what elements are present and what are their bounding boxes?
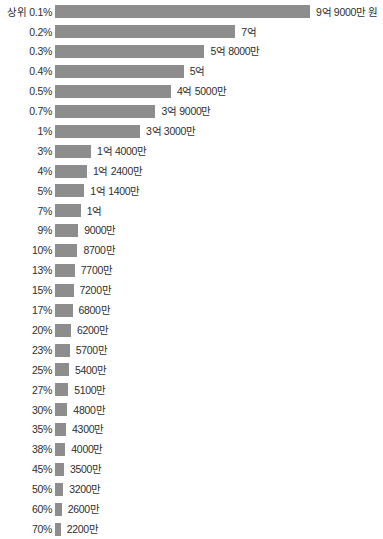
chart-row: 25%5400만 [0, 360, 383, 380]
bar [55, 463, 64, 476]
bar-area: 9000만 [52, 221, 383, 241]
category-label: 45% [0, 464, 52, 475]
bar-area: 4억 5000만 [52, 82, 383, 102]
category-label: 0.7% [0, 106, 52, 117]
bar-area: 9억 9000만 원 [52, 2, 383, 22]
category-label: 27% [0, 385, 52, 396]
bar-area: 5억 [52, 62, 383, 82]
bar-area: 5400만 [52, 360, 383, 380]
category-label: 상위 0.1% [0, 7, 52, 18]
bar [55, 264, 75, 277]
chart-row: 30%4800만 [0, 400, 383, 420]
value-label: 5100만 [74, 385, 106, 396]
bar [55, 363, 69, 376]
category-label: 7% [0, 206, 52, 217]
bar-area: 5억 8000만 [52, 42, 383, 62]
category-label: 35% [0, 424, 52, 435]
bar [55, 244, 77, 257]
bar [55, 204, 81, 217]
bar [55, 324, 71, 337]
chart-row: 38%4000만 [0, 440, 383, 460]
chart-row: 4%1억 2400만 [0, 161, 383, 181]
bar-area: 1억 2400만 [52, 161, 383, 181]
value-label: 8700만 [83, 245, 115, 256]
bar [55, 304, 73, 317]
bar-area: 2200만 [52, 519, 383, 539]
value-label: 4300만 [72, 424, 104, 435]
bar [55, 284, 74, 297]
bar [55, 383, 68, 396]
chart-row: 70%2200만 [0, 519, 383, 539]
value-label: 5700만 [76, 345, 108, 356]
value-label: 3200만 [69, 484, 101, 495]
chart-row: 1%3억 3000만 [0, 121, 383, 141]
bar-area: 4300만 [52, 420, 383, 440]
chart-row: 7%1억 [0, 201, 383, 221]
category-label: 20% [0, 325, 52, 336]
category-label: 9% [0, 225, 52, 236]
value-label: 2600만 [68, 504, 100, 515]
bar-area: 3200만 [52, 479, 383, 499]
value-label: 6200만 [77, 325, 109, 336]
category-label: 30% [0, 405, 52, 416]
bar [55, 25, 235, 38]
category-label: 25% [0, 365, 52, 376]
bar [55, 85, 171, 98]
bar-area: 3억 9000만 [52, 101, 383, 121]
value-label: 1억 [87, 206, 102, 217]
chart-row: 0.4%5억 [0, 62, 383, 82]
category-label: 1% [0, 126, 52, 137]
category-label: 10% [0, 245, 52, 256]
bar [55, 165, 87, 178]
chart-row: 17%6800만 [0, 300, 383, 320]
category-label: 0.2% [0, 27, 52, 38]
bar [55, 125, 140, 138]
value-label: 3억 3000만 [146, 126, 196, 137]
bar-area: 1억 1400만 [52, 181, 383, 201]
bar [55, 483, 63, 496]
chart-row: 0.3%5억 8000만 [0, 42, 383, 62]
bar-area: 5700만 [52, 340, 383, 360]
category-label: 0.3% [0, 46, 52, 57]
category-label: 38% [0, 444, 52, 455]
value-label: 1억 4000만 [97, 146, 147, 157]
bar [55, 5, 310, 18]
value-label: 7억 [241, 27, 256, 38]
category-label: 3% [0, 146, 52, 157]
chart-row: 10%8700만 [0, 241, 383, 261]
bar-area: 3500만 [52, 459, 383, 479]
bar [55, 443, 65, 456]
bar [55, 45, 204, 58]
chart-row: 5%1억 1400만 [0, 181, 383, 201]
category-label: 50% [0, 484, 52, 495]
value-label: 4억 5000만 [177, 86, 227, 97]
bar-area: 8700만 [52, 241, 383, 261]
chart-row: 23%5700만 [0, 340, 383, 360]
chart-row: 27%5100만 [0, 380, 383, 400]
bar-area: 5100만 [52, 380, 383, 400]
bar-area: 6800만 [52, 300, 383, 320]
bar [55, 145, 91, 158]
category-label: 4% [0, 166, 52, 177]
category-label: 23% [0, 345, 52, 356]
value-label: 1억 2400만 [93, 166, 143, 177]
bar-area: 6200만 [52, 320, 383, 340]
bar [55, 403, 67, 416]
bar [55, 523, 61, 536]
category-label: 17% [0, 305, 52, 316]
bar-area: 7억 [52, 22, 383, 42]
bar-area: 4000만 [52, 440, 383, 460]
value-label: 3500만 [70, 464, 102, 475]
value-label: 1억 1400만 [90, 186, 140, 197]
chart-row: 상위 0.1%9억 9000만 원 [0, 2, 383, 22]
chart-row: 0.7%3억 9000만 [0, 101, 383, 121]
category-label: 0.4% [0, 66, 52, 77]
value-label: 7700만 [81, 265, 113, 276]
value-label: 4000만 [71, 444, 103, 455]
value-label: 7200만 [80, 285, 112, 296]
bar-area: 7700만 [52, 261, 383, 281]
bar-area: 3억 3000만 [52, 121, 383, 141]
bar-area: 7200만 [52, 280, 383, 300]
chart-row: 13%7700만 [0, 261, 383, 281]
bar [55, 503, 62, 516]
